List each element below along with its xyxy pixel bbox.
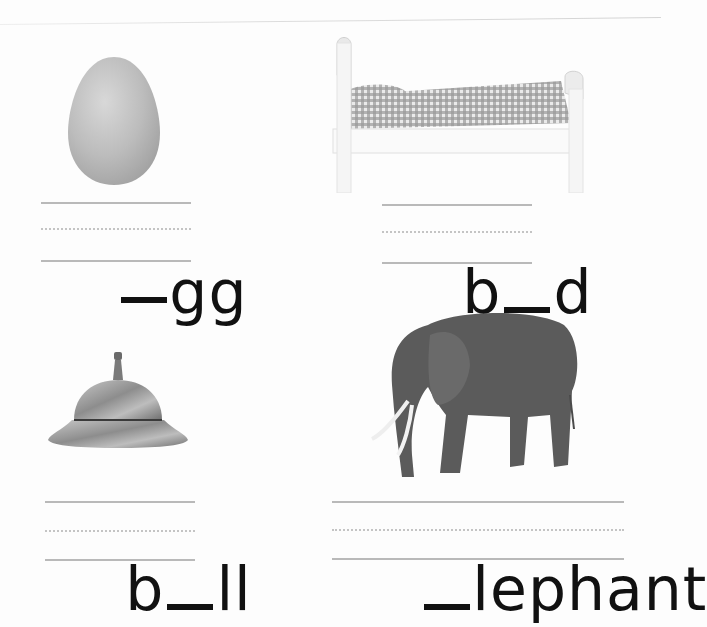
word-prefix: b — [125, 554, 164, 624]
egg-picture — [66, 55, 162, 187]
bed-picture — [325, 33, 591, 193]
elephant-picture — [368, 305, 580, 483]
word-suffix: ll — [216, 554, 251, 624]
word-bed: bd — [382, 204, 532, 268]
word-suffix: lephant — [472, 554, 707, 624]
word-bell: bll — [45, 501, 195, 565]
page-edge-line — [0, 17, 661, 25]
word-elephant: lephant — [332, 501, 624, 581]
letter-blank[interactable] — [167, 604, 213, 610]
word-egg: gg — [41, 202, 191, 282]
word-suffix: gg — [169, 257, 247, 327]
letter-blank[interactable] — [424, 604, 470, 610]
letter-blank[interactable] — [121, 297, 167, 303]
bell-picture — [44, 350, 192, 450]
